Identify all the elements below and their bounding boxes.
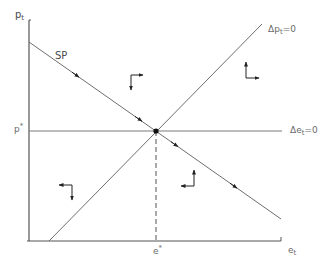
x-axis-label-sub: t: [294, 249, 297, 257]
sp-arrow-icon: [230, 183, 237, 188]
y-axis-label: pt: [15, 10, 24, 22]
saddle-path-label: SP: [55, 51, 67, 61]
equilibrium-point: [153, 128, 158, 133]
de-zero-label-suffix: =0: [304, 125, 317, 135]
p-star-label-sup: *: [20, 122, 24, 130]
saddle-path-label-text: SP: [55, 50, 67, 61]
phase-diagram: [0, 0, 326, 269]
e-star-label: e*: [153, 245, 162, 256]
de-zero-label: Δet=0: [290, 126, 318, 137]
sp-arrow-icon: [135, 116, 142, 121]
sp-arrow-icon: [171, 142, 178, 147]
e-star-label-sup: *: [159, 244, 163, 252]
phase-arrows-upper-middle: [131, 75, 143, 90]
de-zero-label-prefix: Δe: [290, 125, 302, 135]
phase-arrows-lower-middle: [181, 170, 194, 186]
dp-zero-label-suffix: =0: [283, 24, 296, 34]
phase-arrows-upper-right: [246, 62, 259, 78]
p-star-label: p*: [14, 123, 23, 134]
dp-zero-label: Δpt=0: [268, 25, 296, 36]
dp-zero-label-prefix: Δp: [268, 24, 280, 34]
y-axis-label-sub: t: [21, 14, 24, 22]
sp-arrow-icon: [72, 72, 79, 77]
x-axis-label: et: [288, 246, 296, 257]
phase-arrows-lower-left: [59, 185, 72, 200]
